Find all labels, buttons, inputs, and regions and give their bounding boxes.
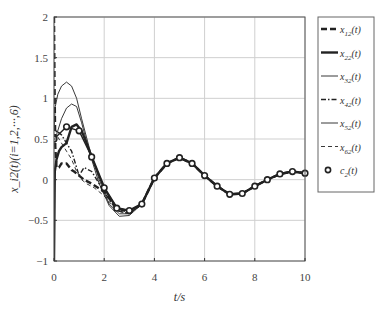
marker-c2 xyxy=(239,191,245,197)
marker-c2 xyxy=(214,183,220,189)
y-tick-label: 2 xyxy=(43,11,49,23)
marker-c2 xyxy=(189,161,195,167)
marker-c2 xyxy=(252,183,258,189)
marker-c2 xyxy=(127,208,133,214)
marker-c2 xyxy=(76,128,82,134)
marker-c2 xyxy=(277,171,283,177)
marker-c2 xyxy=(64,124,70,130)
y-tick-label: 1 xyxy=(43,92,49,104)
marker-c2 xyxy=(177,155,183,161)
y-tick-label: 0.5 xyxy=(34,133,48,145)
chart-canvas: −1−0.500.511.52 0246810 t/s x_i2(t)(i=1,… xyxy=(0,0,380,312)
x-tick-label: 0 xyxy=(51,271,57,283)
x-tick-label: 8 xyxy=(252,271,258,283)
y-tick-label: 0 xyxy=(43,174,49,186)
marker-c2 xyxy=(227,192,233,198)
series-x62(t) xyxy=(54,135,305,214)
marker-c2 xyxy=(152,175,158,181)
y-tick-label: −0.5 xyxy=(28,214,48,226)
x-tick-label: 2 xyxy=(101,271,107,283)
marker-c2 xyxy=(89,154,95,160)
x-axis-ticks: 0246810 xyxy=(51,258,311,283)
series-x22(t) xyxy=(54,124,305,261)
marker-c2 xyxy=(114,205,120,211)
legend-marker-circle-icon xyxy=(325,167,330,172)
marker-c2 xyxy=(101,185,107,191)
marker-c2 xyxy=(139,201,145,207)
y-tick-label: 1.5 xyxy=(34,52,48,64)
x-tick-label: 6 xyxy=(202,271,208,283)
x-tick-label: 4 xyxy=(152,271,158,283)
y-axis-ticks: −1−0.500.511.52 xyxy=(28,11,57,267)
legend: x12(t)x22(t)x32(t)x42(t)x52(t)x62(t)c2(t… xyxy=(318,17,374,192)
x-axis-label: t/s xyxy=(174,290,186,304)
marker-c2 xyxy=(290,169,296,175)
marker-c2 xyxy=(265,177,271,183)
y-tick-label: −1 xyxy=(36,255,48,267)
series-x32(t) xyxy=(54,82,305,214)
grid-lines xyxy=(54,17,305,261)
y-axis-label: x_i2(t)(i=1,2,···,6) xyxy=(7,105,21,193)
marker-c2 xyxy=(164,161,170,167)
x-tick-label: 10 xyxy=(300,271,312,283)
series-x42(t) xyxy=(54,131,305,214)
marker-c2 xyxy=(202,173,208,179)
